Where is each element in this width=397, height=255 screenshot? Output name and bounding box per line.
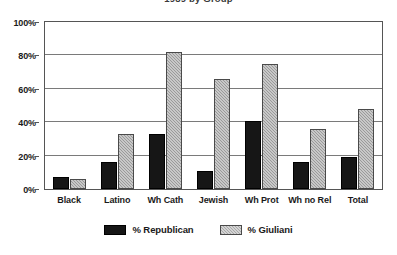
bar <box>358 109 374 189</box>
bar-group <box>286 22 334 189</box>
bar <box>197 171 213 189</box>
bar-chart: 1989 by Group 0%20%40%60%80%100% BlackLa… <box>0 0 397 255</box>
legend-label: % Giuliani <box>248 224 293 235</box>
bar <box>214 79 230 189</box>
x-axis-tick-label: Latino <box>93 195 141 205</box>
chart-title: 1989 by Group <box>0 0 397 4</box>
y-axis-tick-mark <box>35 156 39 157</box>
y-axis-tick-mark <box>35 22 39 23</box>
y-axis-tick-label: 80% <box>18 51 36 61</box>
bar <box>262 64 278 189</box>
bar-group <box>141 22 189 189</box>
bar <box>293 162 309 189</box>
y-axis-tick-label: 0% <box>23 185 36 195</box>
bar-group <box>189 22 237 189</box>
bar-group <box>45 22 93 189</box>
bar <box>101 162 117 189</box>
bar-group <box>238 22 286 189</box>
y-axis-tick-label: 40% <box>18 118 36 128</box>
legend-swatch-republican-icon <box>104 225 126 235</box>
x-axis-tick-label: Wh Cath <box>141 195 189 205</box>
legend-label: % Republican <box>132 224 193 235</box>
x-axis-tick-label: Black <box>45 195 93 205</box>
bar <box>53 177 69 189</box>
bar <box>310 129 326 189</box>
y-axis-tick-mark <box>35 189 39 190</box>
y-axis-tick-label: 100% <box>13 18 36 28</box>
legend-item: % Giuliani <box>220 224 293 235</box>
bar <box>70 179 86 189</box>
bar <box>118 134 134 189</box>
x-axis-tick-label: Wh no Rel <box>286 195 334 205</box>
bars-layer <box>45 22 382 189</box>
bar <box>149 134 165 189</box>
bar <box>166 52 182 189</box>
y-axis-tick-mark <box>35 122 39 123</box>
x-axis-tick-label: Wh Prot <box>238 195 286 205</box>
x-axis: BlackLatinoWh CathJewishWh ProtWh no Rel… <box>45 195 382 209</box>
y-axis-tick-mark <box>35 55 39 56</box>
bar <box>341 157 357 189</box>
y-axis: 0%20%40%60%80%100% <box>0 21 39 190</box>
y-axis-tick-label: 20% <box>18 152 36 162</box>
bar-group <box>334 22 382 189</box>
bar <box>245 121 261 189</box>
legend-swatch-giuliani-icon <box>220 225 242 235</box>
legend-item: % Republican <box>104 224 193 235</box>
y-axis-tick-label: 60% <box>18 85 36 95</box>
x-axis-tick-label: Total <box>334 195 382 205</box>
y-axis-tick-mark <box>35 89 39 90</box>
x-axis-tick-label: Jewish <box>189 195 237 205</box>
chart-legend: % Republican% Giuliani <box>0 224 397 235</box>
bar-group <box>93 22 141 189</box>
